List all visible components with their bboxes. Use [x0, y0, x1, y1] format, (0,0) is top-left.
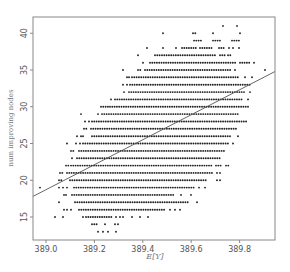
data-point [197, 121, 199, 123]
data-point [143, 201, 145, 203]
data-point [119, 113, 121, 115]
data-point [129, 113, 131, 115]
data-point [222, 143, 224, 145]
data-point [186, 62, 188, 64]
data-point [213, 69, 215, 71]
data-point [79, 201, 81, 203]
data-point [225, 76, 227, 78]
data-point [146, 143, 148, 145]
data-point [131, 157, 133, 159]
data-point [179, 69, 181, 71]
data-point [193, 187, 195, 189]
data-point [124, 187, 126, 189]
data-point [206, 135, 208, 137]
data-point [196, 106, 198, 108]
data-point [168, 113, 170, 115]
x-tick-label: 389.8 [228, 245, 251, 254]
data-point [163, 187, 165, 189]
data-point [102, 201, 104, 203]
data-point [128, 165, 130, 167]
data-point [179, 179, 181, 181]
data-point [190, 143, 192, 145]
data-point [160, 187, 162, 189]
data-point [181, 143, 183, 145]
data-point [241, 62, 243, 64]
data-point [107, 106, 109, 108]
data-point [132, 201, 134, 203]
data-point [183, 98, 185, 100]
data-point [169, 106, 171, 108]
data-point [176, 135, 178, 137]
data-point [119, 135, 121, 137]
data-point [218, 135, 220, 137]
data-point [175, 150, 177, 152]
data-point [117, 223, 119, 225]
data-point [110, 187, 112, 189]
data-point [186, 179, 188, 181]
data-point [127, 179, 129, 181]
data-point [150, 106, 152, 108]
data-point [158, 91, 160, 93]
data-point [145, 84, 147, 86]
data-point [211, 69, 213, 71]
data-point [184, 150, 186, 152]
data-point [140, 194, 142, 196]
data-point [222, 121, 224, 123]
data-point [138, 209, 140, 211]
data-point [117, 143, 119, 145]
data-point [179, 113, 181, 115]
data-point [193, 172, 195, 174]
data-point [219, 106, 221, 108]
data-point [185, 121, 187, 123]
data-point [76, 157, 78, 159]
data-point [165, 91, 167, 93]
data-point [196, 179, 198, 181]
data-point [195, 40, 197, 42]
data-point [201, 165, 203, 167]
data-point [86, 201, 88, 203]
data-point [123, 165, 125, 167]
data-point [152, 157, 154, 159]
data-point [125, 201, 127, 203]
data-point [81, 179, 83, 181]
data-point [192, 32, 194, 34]
data-point [214, 157, 216, 159]
data-point [176, 143, 178, 145]
data-point [163, 62, 165, 64]
data-point [149, 187, 151, 189]
data-point [97, 231, 99, 233]
data-point [128, 91, 130, 93]
data-point [140, 209, 142, 211]
data-point [105, 143, 107, 145]
data-point [116, 135, 118, 137]
data-point [216, 150, 218, 152]
data-point [166, 179, 168, 181]
data-point [179, 62, 181, 64]
data-point [230, 76, 232, 78]
data-point [78, 150, 80, 152]
data-point [153, 98, 155, 100]
data-point [234, 69, 236, 71]
data-point [173, 106, 175, 108]
y-tick-label: 30 [20, 102, 29, 112]
data-point [196, 201, 198, 203]
data-point [234, 121, 236, 123]
data-point [227, 62, 229, 64]
data-point [176, 91, 178, 93]
data-point [214, 84, 216, 86]
data-point [184, 179, 186, 181]
data-point [154, 150, 156, 152]
data-point [202, 91, 204, 93]
data-point [74, 201, 76, 203]
data-point [167, 165, 169, 167]
data-point [231, 40, 233, 42]
data-point [110, 143, 112, 145]
data-point [219, 157, 221, 159]
data-point [124, 179, 126, 181]
data-point [181, 121, 183, 123]
data-point [98, 187, 100, 189]
data-point [160, 143, 162, 145]
data-point [180, 128, 182, 130]
data-point [108, 179, 110, 181]
data-point [156, 172, 158, 174]
